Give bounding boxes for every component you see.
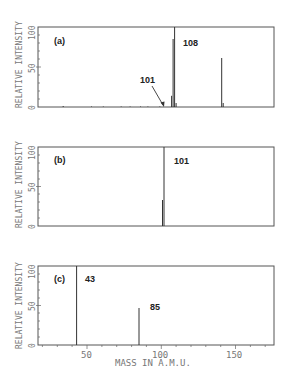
panel-a-peaks [63, 27, 223, 107]
panel-a: RELATIVE INTENSITY 0 50 100 (a) 108 101 [15, 21, 274, 110]
panel-a-ytick-0: 0 [28, 105, 37, 110]
panel-b-frame [38, 147, 274, 226]
mass-spectra-figure: RELATIVE INTENSITY 0 50 100 (a) 108 101 [0, 0, 288, 383]
panel-c-label: (c) [54, 274, 65, 284]
panel-b-peaks [163, 147, 165, 226]
panel-b-ytick-50: 50 [28, 182, 37, 192]
panel-c-ytick-100: 100 [28, 264, 37, 279]
panel-b-ytick-100: 100 [28, 145, 37, 160]
panel-a-peak-101-label: 101 [140, 75, 155, 85]
x-axis-label: MASS IN A.M.U. [115, 358, 191, 368]
panel-c-ytick-50: 50 [28, 301, 37, 311]
arrow-icon [152, 86, 165, 107]
panel-c-peak-85-label: 85 [150, 302, 160, 312]
xtick-150: 150 [226, 350, 242, 360]
panel-c-peak-43-label: 43 [85, 274, 95, 284]
panel-a-ytick-50: 50 [28, 63, 37, 73]
panel-c-x-ticks [42, 345, 265, 349]
panel-a-label: (a) [54, 36, 65, 46]
panel-b-peak-101-label: 101 [174, 156, 189, 166]
panel-a-ytick-100: 100 [28, 25, 37, 40]
panel-b-y-axis-label: RELATIVE INTENSITY [15, 141, 24, 228]
xtick-50: 50 [81, 350, 92, 360]
panel-a-peak-108-label: 108 [183, 38, 198, 48]
panel-b: RELATIVE INTENSITY 0 50 100 (b) 101 [15, 141, 274, 229]
panel-b-ytick-0: 0 [28, 224, 37, 229]
panel-c: RELATIVE INTENSITY 0 50 100 (c) 43 85 50… [15, 262, 274, 368]
panel-b-label: (b) [54, 155, 66, 165]
panel-c-y-axis-label: RELATIVE INTENSITY [15, 262, 24, 349]
panel-a-y-axis-label: RELATIVE INTENSITY [15, 21, 24, 108]
panel-a-frame [38, 27, 274, 107]
panel-c-ytick-0: 0 [28, 343, 37, 348]
